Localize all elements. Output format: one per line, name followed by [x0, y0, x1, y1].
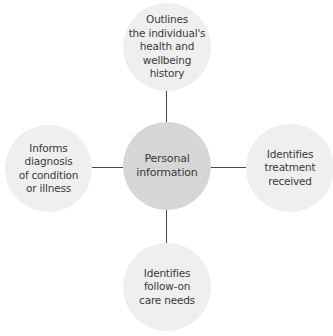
connector-left	[91, 167, 124, 168]
node-follow-on-care: Identifies follow-on care needs	[123, 243, 211, 331]
node-diagnosis: Informs diagnosis of condition or illnes…	[5, 125, 92, 212]
node-treatment-received: Identifies treatment received	[246, 124, 333, 212]
node-health-history-label: Outlines the individual's health and wel…	[129, 13, 206, 81]
node-diagnosis-label: Informs diagnosis of condition or illnes…	[19, 142, 79, 196]
node-follow-on-care-label: Identifies follow-on care needs	[139, 267, 195, 308]
node-personal-information: Personal information	[123, 122, 211, 210]
connector-bottom	[166, 208, 167, 244]
node-treatment-received-label: Identifies treatment received	[265, 148, 316, 189]
connector-top	[166, 90, 167, 122]
personal-information-diagram: Outlines the individual's health and wel…	[0, 0, 333, 336]
connector-right	[210, 167, 247, 168]
node-personal-information-label: Personal information	[136, 152, 197, 180]
node-health-history: Outlines the individual's health and wel…	[123, 3, 211, 91]
